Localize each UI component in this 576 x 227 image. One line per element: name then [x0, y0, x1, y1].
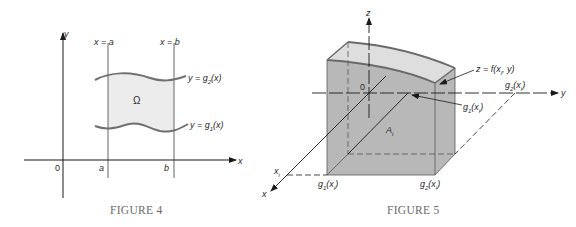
origin-label-3d: 0 — [360, 82, 365, 92]
tick-b-label: b — [164, 163, 169, 173]
z-axis-label: z — [365, 8, 371, 18]
surface-label: z = f(xi, y) — [475, 64, 515, 76]
tick-a-label: a — [99, 163, 104, 173]
g1-pointer-label: g1(xi) — [463, 102, 483, 114]
figure-5-caption: FIGURE 5 — [387, 204, 440, 216]
origin-label: 0 — [55, 163, 60, 173]
upper-curve-label: y = g2(x) — [187, 73, 222, 85]
figure-5: z y x 0 xi z = f(xi, y) Ai g1(xi) g2(xi)… — [261, 8, 566, 216]
line-b-label: x = b — [159, 37, 180, 47]
x-axis-label: x — [237, 156, 243, 166]
region-omega-label: Ω — [133, 95, 141, 106]
line-a-label: x = a — [93, 37, 114, 47]
figure-4-caption: FIGURE 4 — [110, 204, 163, 216]
g2-bottom-label: g2(xi) — [420, 179, 440, 191]
g1-bottom-label: g1(xi) — [318, 179, 338, 191]
y-axis-label: y — [63, 29, 69, 39]
g2-yaxis-label: g2(xi) — [505, 80, 525, 92]
y-axis-label-3d: y — [560, 88, 566, 98]
lower-curve-label: y = g1(x) — [189, 120, 224, 132]
x-axis-label-3d: x — [261, 189, 267, 199]
figure-4: y x 0 a b x = a x = b Ω y = g2(x) y = g1… — [24, 29, 243, 216]
figures-canvas: y x 0 a b x = a x = b Ω y = g2(x) y = g1… — [0, 0, 576, 227]
omega-region — [108, 74, 174, 131]
box-right-face — [435, 68, 455, 175]
xi-label: xi — [273, 166, 281, 178]
